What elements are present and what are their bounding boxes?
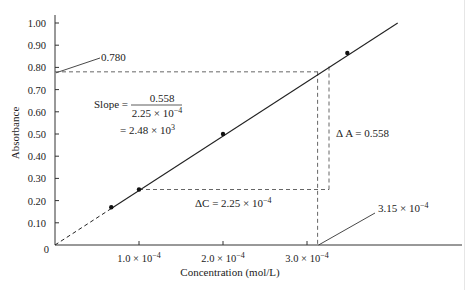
absorbance-chart: 00.100.200.300.400.500.600.700.800.901.0… [0,0,473,290]
extrapolated-line [55,209,111,245]
x-tick-label: 2.0 × 10−4 [201,251,244,264]
y-tick-label: 0.30 [28,173,46,184]
y-ticks: 00.100.200.300.400.500.600.700.800.901.0… [28,18,59,255]
y-tick-label: 0.40 [28,151,46,162]
y-read-annotation: 0.780 [101,51,126,63]
leader-lines [56,58,375,245]
y-tick-label: 0.60 [28,107,46,118]
delta-a-annotation: Δ A = 0.558 [336,127,390,139]
y-tick-label: 0.20 [28,196,46,207]
y-tick-label: 1.00 [28,18,46,29]
y-tick-label: 0 [44,244,49,255]
slope-result: = 2.48 × 103 [120,123,175,136]
x-axis-label: Concentration (mol/L) [180,266,280,279]
x-read-annotation: 3.15 × 10−4 [378,201,428,214]
delta-c-annotation: ΔC = 2.25 × 10−4 [195,196,272,209]
y-read-leader [56,58,100,73]
x-read-leader [319,213,375,245]
x-tick-label: 1.0 × 10−4 [117,251,160,264]
slope-label: Slope = [94,98,128,110]
slope-denominator: 2.25 × 10−4 [132,106,182,119]
y-tick-label: 0.90 [28,40,46,51]
x-ticks: 1.0 × 10−42.0 × 10−43.0 × 10−4 [117,241,328,264]
y-tick-label: 0.70 [28,85,46,96]
y-tick-label: 0.10 [28,218,46,229]
y-axis-label: Absorbance [9,107,21,160]
data-point [345,51,349,55]
y-tick-label: 0.50 [28,129,46,140]
data-point [109,205,113,209]
slope-numerator: 0.558 [150,92,175,104]
x-tick-label: 3.0 × 10−4 [285,251,328,264]
data-point [221,132,225,136]
data-point [137,187,141,191]
y-tick-label: 0.80 [28,62,46,73]
